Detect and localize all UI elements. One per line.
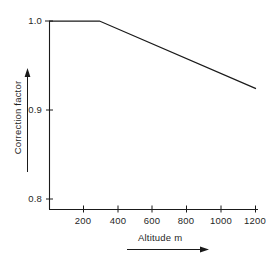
y-tick-label-1: 1.0 [20,16,42,26]
x-tick-label-200: 200 [68,216,98,226]
y-axis-arrow-icon [25,68,31,172]
x-tick-label-400: 400 [103,216,133,226]
x-axis-title: Altitude m [138,232,182,243]
x-axis-arrow-icon [127,247,209,253]
y-axis-title: Correction factor [12,75,23,161]
x-tick-label-1000: 1000 [206,216,236,226]
data-series-line [49,21,256,89]
x-tick-label-800: 800 [171,216,201,226]
correction-factor-chart: 1.0 0.9 0.8 200 400 600 800 1000 1200 Al… [0,0,272,259]
y-tick-label-2: 0.9 [20,105,42,115]
y-tick-label-3: 0.8 [20,194,42,204]
x-tick-label-1200: 1200 [240,216,270,226]
x-tick-label-600: 600 [137,216,167,226]
